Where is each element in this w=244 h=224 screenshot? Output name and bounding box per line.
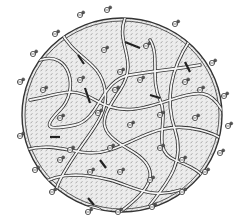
particle-diagram — [0, 0, 244, 224]
